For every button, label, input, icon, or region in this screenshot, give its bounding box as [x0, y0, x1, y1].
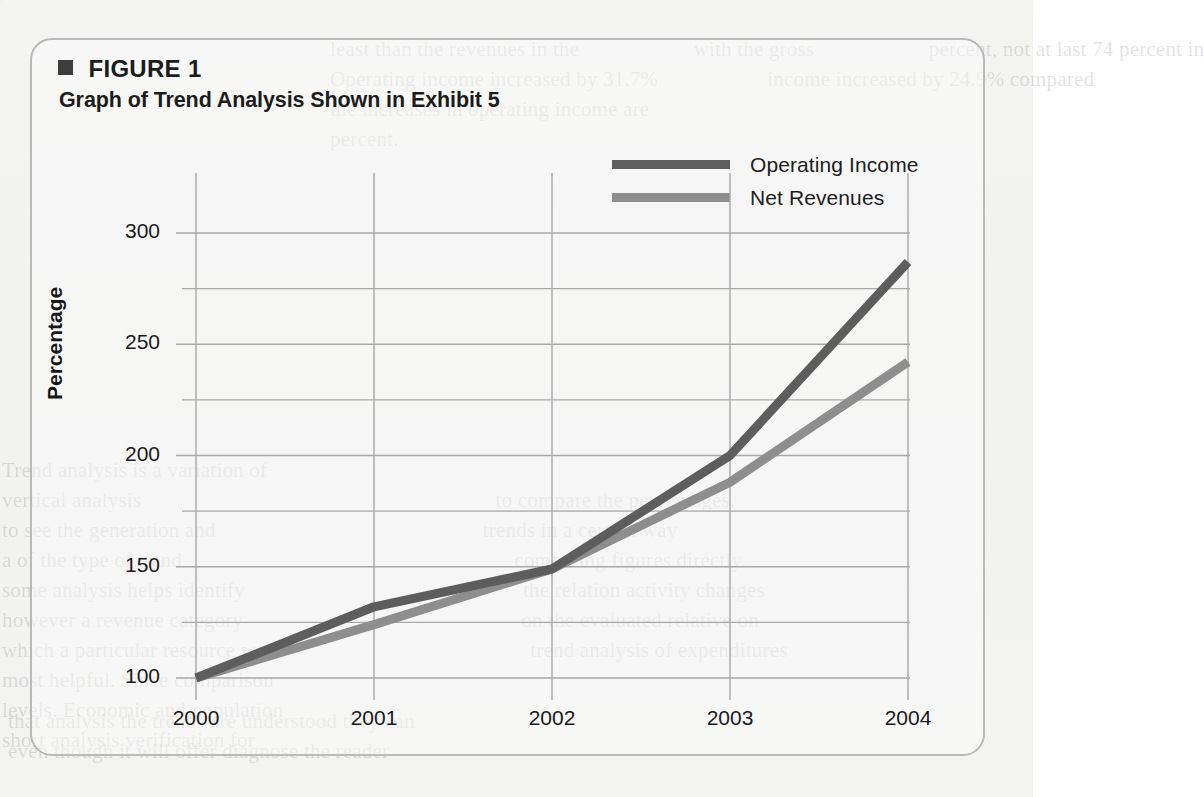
- y-tick-label-250: 250: [90, 330, 160, 354]
- legend-item-net-revenues: Net Revenues: [612, 181, 919, 214]
- figure-subtitle: Graph of Trend Analysis Shown in Exhibit…: [59, 88, 778, 113]
- figure-label: FIGURE 1: [88, 55, 201, 83]
- y-tick-label-200: 200: [90, 442, 160, 466]
- x-tick-label-2001: 2001: [329, 706, 419, 730]
- x-tick-label-2003: 2003: [685, 706, 775, 730]
- square-bullet-icon: [58, 60, 73, 75]
- legend-label-net-revenues: Net Revenues: [750, 186, 884, 210]
- y-axis-title: Percentage: [43, 287, 67, 400]
- y-tick-label-300: 300: [90, 219, 160, 243]
- x-tick-label-2004: 2004: [863, 706, 953, 730]
- y-tick-label-100: 100: [90, 664, 160, 688]
- legend-item-operating-income: Operating Income: [612, 148, 919, 181]
- chart-legend: Operating Income Net Revenues: [612, 148, 919, 214]
- legend-label-operating-income: Operating Income: [750, 153, 919, 177]
- figure-heading: FIGURE 1 Graph of Trend Analysis Shown i…: [58, 55, 778, 113]
- x-tick-label-2000: 2000: [151, 706, 241, 730]
- figure-card: [30, 38, 985, 756]
- y-tick-label-150: 150: [90, 553, 160, 577]
- x-tick-label-2002: 2002: [507, 706, 597, 730]
- legend-swatch-net-revenues: [612, 193, 730, 202]
- legend-swatch-operating-income: [612, 160, 730, 169]
